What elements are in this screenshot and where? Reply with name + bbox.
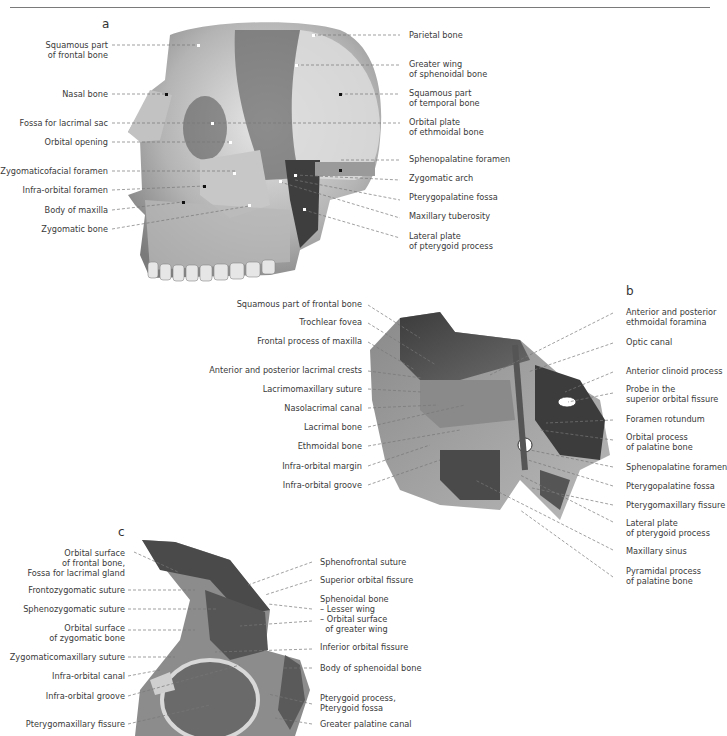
label-sphenopalatine-foramen-b: Sphenopalatine foramen: [626, 462, 727, 472]
label-greater-wing-sphenoid: Greater wingof sphenoidal bone: [409, 59, 487, 79]
label-orbital-surface-frontal: Orbital surfaceof frontal bone,Fossa for…: [27, 548, 125, 578]
label-orbital-opening: Orbital opening: [45, 137, 108, 147]
panel-label-b: b: [626, 284, 634, 298]
label-infraorbital-foramen: Infra-orbital foramen: [23, 185, 108, 195]
label-zygomaticofacial-foramen: Zygomaticofacial foramen: [0, 166, 108, 176]
label-fossa-lacrimal-sac: Fossa for lacrimal sac: [19, 118, 108, 128]
label-lateral-plate-pterygoid-a: Lateral plateof pterygoid process: [409, 231, 493, 251]
label-zygomatic-arch: Zygomatic arch: [409, 173, 473, 183]
label-greater-palatine-canal: Greater palatine canal: [320, 719, 412, 729]
label-pterygomaxillary-fissure-c: Pterygomaxillary fissure: [26, 719, 125, 729]
label-pterygopalatine-fossa-a: Pterygopalatine fossa: [409, 192, 498, 202]
label-zygomaticomaxillary-suture: Zygomaticomaxillary suture: [10, 652, 125, 662]
panel-label-a: a: [102, 17, 109, 31]
label-sphenozygomatic-suture: Sphenozygomatic suture: [23, 604, 125, 614]
skull-illustration-a: [128, 22, 381, 281]
label-infraorbital-margin: Infra-orbital margin: [282, 461, 362, 471]
label-ethmoidal-bone: Ethmoidal bone: [298, 441, 362, 451]
label-squamous-frontal-b: Squamous part of frontal bone: [237, 299, 362, 309]
orbit-wall-illustration-c: [135, 540, 310, 736]
label-pterygoid-process-fossa: Pterygoid process,Pterygoid fossa: [320, 693, 396, 713]
label-lacrimal-bone: Lacrimal bone: [304, 422, 362, 432]
label-nasolacrimal-canal: Nasolacrimal canal: [284, 403, 362, 413]
label-pyramidal-process-palatine: Pyramidal processof palatine bone: [626, 566, 701, 586]
label-sphenofrontal-suture: Sphenofrontal suture: [320, 557, 406, 567]
label-frontozygomatic-suture: Frontozygomatic suture: [28, 585, 125, 595]
label-sphenopalatine-foramen-a: Sphenopalatine foramen: [409, 154, 510, 164]
label-maxillary-tuberosity: Maxillary tuberosity: [409, 211, 490, 221]
label-superior-orbital-fissure: Superior orbital fissure: [320, 575, 413, 585]
label-zygomatic-bone: Zygomatic bone: [41, 224, 108, 234]
panel-label-c: c: [118, 525, 125, 539]
label-squamous-frontal: Squamous partof frontal bone: [46, 40, 108, 60]
label-sphenoidal-bone-wings: Sphenoidal bone– Lesser wing– Orbital su…: [320, 594, 389, 634]
label-probe-superior-orbital-fissure: Probe in thesuperior orbital fissure: [626, 384, 718, 404]
label-optic-canal: Optic canal: [626, 337, 672, 347]
label-nasal-bone: Nasal bone: [62, 89, 108, 99]
label-lateral-plate-pterygoid-b: Lateral plateof pterygoid process: [626, 518, 710, 538]
label-trochlear-fovea: Trochlear fovea: [299, 317, 362, 327]
label-ethmoidal-foramina: Anterior and posteriorethmoidal foramina: [626, 307, 716, 327]
label-orbital-process-palatine: Orbital processof palatine bone: [626, 432, 693, 452]
label-anterior-clinoid-process: Anterior clinoid process: [626, 366, 722, 376]
label-frontal-process-maxilla: Frontal process of maxilla: [257, 336, 362, 346]
label-infraorbital-canal: Infra-orbital canal: [52, 671, 125, 681]
label-orbital-plate-ethmoid: Orbital plateof ethmoidal bone: [409, 117, 484, 137]
label-pterygomaxillary-fissure-b: Pterygomaxillary fissure: [626, 500, 725, 510]
label-infraorbital-groove-c: Infra-orbital groove: [46, 691, 125, 701]
label-foramen-rotundum: Foramen rotundum: [626, 414, 705, 424]
label-lacrimomaxillary-suture: Lacrimomaxillary suture: [263, 384, 362, 394]
label-maxillary-sinus: Maxillary sinus: [626, 546, 687, 556]
label-body-of-maxilla: Body of maxilla: [45, 205, 108, 215]
label-parietal-bone: Parietal bone: [409, 30, 463, 40]
label-orbital-surface-zygomatic: Orbital surfaceof zygomatic bone: [49, 623, 125, 643]
orbit-illustration-b: [370, 312, 610, 520]
label-body-sphenoidal-bone: Body of sphenoidal bone: [320, 663, 421, 673]
label-infraorbital-groove-b: Infra-orbital groove: [283, 480, 362, 490]
label-squamous-temporal: Squamous partof temporal bone: [409, 88, 480, 108]
label-lacrimal-crests: Anterior and posterior lacrimal crests: [209, 365, 362, 375]
label-pterygopalatine-fossa-b: Pterygopalatine fossa: [626, 481, 715, 491]
label-inferior-orbital-fissure: Inferior orbital fissure: [320, 642, 408, 652]
